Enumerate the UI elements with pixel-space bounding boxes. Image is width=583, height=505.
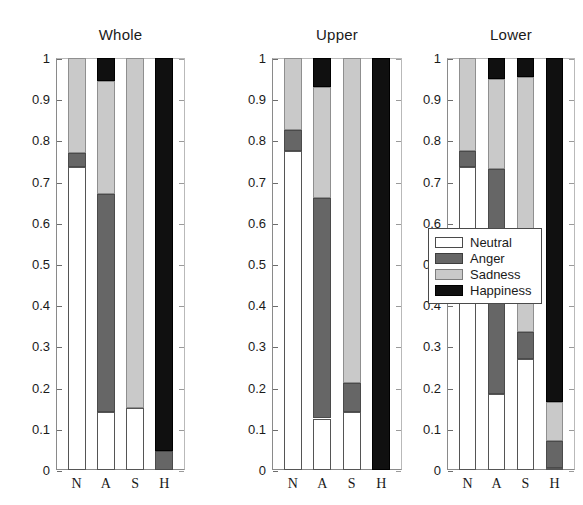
y-tick-label: 0.8 — [232, 133, 266, 148]
y-tick-mark-right — [569, 59, 574, 60]
y-tick-mark — [57, 347, 62, 348]
y-tick-label: 0.2 — [407, 380, 441, 395]
stacked-bar-H — [546, 58, 564, 470]
bar-segment-anger — [546, 441, 564, 468]
y-tick-mark-right — [396, 430, 401, 431]
stacked-bar-H — [155, 58, 173, 470]
y-tick-mark — [57, 430, 62, 431]
bar-segment-happiness — [517, 58, 535, 77]
y-tick-label: 0.3 — [407, 339, 441, 354]
y-tick-label: 0.1 — [407, 421, 441, 436]
bar-segment-sadness — [546, 402, 564, 441]
bar-segment-sadness — [97, 81, 115, 194]
y-tick-label: 0.1 — [232, 421, 266, 436]
y-tick-label: 0 — [16, 463, 50, 478]
y-tick-label: 0.6 — [232, 215, 266, 230]
bar-segment-neutral — [546, 468, 564, 470]
y-tick-label: 0.8 — [16, 133, 50, 148]
y-tick-mark-right — [569, 306, 574, 307]
stacked-bar-N — [284, 58, 302, 470]
stacked-bar-S — [126, 58, 144, 470]
x-tick-label-S: S — [348, 476, 356, 492]
y-tick-mark — [448, 347, 453, 348]
y-tick-mark — [448, 100, 453, 101]
bar-segment-anger — [68, 153, 86, 167]
legend-swatch-happiness — [435, 285, 463, 296]
legend-item-happiness: Happiness — [435, 282, 534, 298]
y-tick-mark-right — [569, 141, 574, 142]
y-tick-mark — [448, 224, 453, 225]
chart-panel-whole: Whole00.10.20.30.40.50.60.70.80.91NASH — [56, 0, 185, 505]
y-tick-mark — [57, 59, 62, 60]
y-tick-label: 0 — [407, 463, 441, 478]
y-tick-mark-right — [569, 224, 574, 225]
y-tick-mark-right — [179, 59, 184, 60]
y-tick-mark — [57, 265, 62, 266]
y-tick-label: 0.7 — [16, 174, 50, 189]
stacked-bar-N — [68, 58, 86, 470]
bar-segment-anger — [459, 151, 477, 167]
y-tick-mark-right — [396, 265, 401, 266]
y-tick-mark-right — [179, 430, 184, 431]
y-tick-mark-right — [569, 265, 574, 266]
bar-segment-neutral — [126, 408, 144, 470]
chart-panel-upper: Upper00.10.20.30.40.50.60.70.80.91NASH — [272, 0, 402, 505]
y-tick-mark — [273, 389, 278, 390]
bar-segment-sadness — [284, 58, 302, 130]
bar-segment-anger — [343, 383, 361, 412]
x-tick-label-N: N — [72, 476, 82, 492]
panel-title: Whole — [56, 26, 185, 43]
bar-segment-neutral — [68, 167, 86, 470]
chart-legend: NeutralAngerSadnessHappiness — [428, 228, 542, 304]
y-tick-mark — [273, 265, 278, 266]
stacked-bar-S — [343, 58, 361, 470]
y-tick-label: 0.7 — [407, 174, 441, 189]
y-tick-label: 0.9 — [407, 92, 441, 107]
legend-item-neutral: Neutral — [435, 234, 534, 250]
y-tick-label: 0.4 — [16, 298, 50, 313]
y-tick-label: 0.3 — [232, 339, 266, 354]
bar-segment-happiness — [155, 58, 173, 451]
y-tick-mark — [273, 347, 278, 348]
bar-segment-anger — [517, 332, 535, 359]
bar-segment-neutral — [284, 151, 302, 470]
stacked-bar-chart-figure: Whole00.10.20.30.40.50.60.70.80.91NASHUp… — [0, 0, 583, 505]
y-tick-mark — [273, 430, 278, 431]
x-tick-label-A: A — [101, 476, 111, 492]
legend-swatch-neutral — [435, 237, 463, 248]
bar-segment-sadness — [459, 58, 477, 151]
y-tick-mark — [57, 141, 62, 142]
y-tick-label: 0.4 — [232, 298, 266, 313]
y-tick-mark-right — [396, 100, 401, 101]
bar-segment-neutral — [97, 412, 115, 470]
y-tick-mark — [273, 100, 278, 101]
bar-segment-happiness — [488, 58, 506, 79]
bar-segment-sadness — [343, 58, 361, 383]
y-tick-mark-right — [396, 347, 401, 348]
bar-segment-sadness — [68, 58, 86, 153]
y-tick-label: 0.1 — [16, 421, 50, 436]
y-tick-mark-right — [179, 224, 184, 225]
y-tick-label: 0.2 — [232, 380, 266, 395]
y-tick-mark — [273, 59, 278, 60]
x-tick-label-S: S — [522, 476, 530, 492]
bar-segment-anger — [97, 194, 115, 412]
y-tick-mark-right — [396, 389, 401, 390]
y-tick-label: 0.9 — [16, 92, 50, 107]
bar-segment-neutral — [313, 419, 331, 471]
y-tick-mark-right — [179, 141, 184, 142]
bar-segment-anger — [284, 130, 302, 151]
y-tick-mark-right — [396, 224, 401, 225]
x-tick-label-A: A — [317, 476, 327, 492]
y-tick-mark — [448, 306, 453, 307]
bar-segment-sadness — [313, 87, 331, 198]
y-tick-mark-right — [569, 430, 574, 431]
y-tick-mark-right — [569, 389, 574, 390]
y-tick-mark-right — [569, 471, 574, 472]
y-tick-label: 0.7 — [232, 174, 266, 189]
bar-segment-happiness — [97, 58, 115, 81]
y-tick-mark-right — [179, 347, 184, 348]
y-tick-mark-right — [396, 141, 401, 142]
y-tick-label: 0.5 — [16, 257, 50, 272]
y-tick-mark-right — [179, 265, 184, 266]
